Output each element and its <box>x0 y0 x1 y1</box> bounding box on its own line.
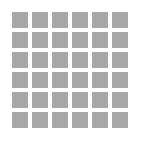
grid-cell <box>72 112 88 128</box>
grid-cell <box>32 72 48 88</box>
grid-cell <box>32 52 48 68</box>
grid-cell <box>32 12 48 28</box>
grid-cell <box>112 92 128 108</box>
grid-cell <box>32 92 48 108</box>
grid-cell <box>92 52 108 68</box>
grid-cell <box>52 12 68 28</box>
grid-cell <box>92 112 108 128</box>
grid-cell <box>92 72 108 88</box>
square-grid <box>12 12 128 128</box>
grid-cell <box>112 12 128 28</box>
grid-cell <box>12 32 28 48</box>
pattern-canvas <box>0 0 146 145</box>
grid-cell <box>72 32 88 48</box>
grid-cell <box>72 92 88 108</box>
grid-cell <box>112 72 128 88</box>
grid-cell <box>52 52 68 68</box>
grid-cell <box>92 12 108 28</box>
grid-cell <box>32 32 48 48</box>
grid-cell <box>112 52 128 68</box>
grid-cell <box>92 92 108 108</box>
grid-cell <box>112 32 128 48</box>
grid-cell <box>12 112 28 128</box>
grid-cell <box>32 112 48 128</box>
grid-cell <box>12 12 28 28</box>
grid-cell <box>12 52 28 68</box>
grid-cell <box>52 112 68 128</box>
grid-cell <box>112 112 128 128</box>
grid-cell <box>52 32 68 48</box>
grid-cell <box>12 72 28 88</box>
grid-cell <box>72 72 88 88</box>
grid-cell <box>72 52 88 68</box>
grid-cell <box>52 72 68 88</box>
grid-cell <box>52 92 68 108</box>
grid-cell <box>72 12 88 28</box>
grid-cell <box>12 92 28 108</box>
grid-cell <box>92 32 108 48</box>
